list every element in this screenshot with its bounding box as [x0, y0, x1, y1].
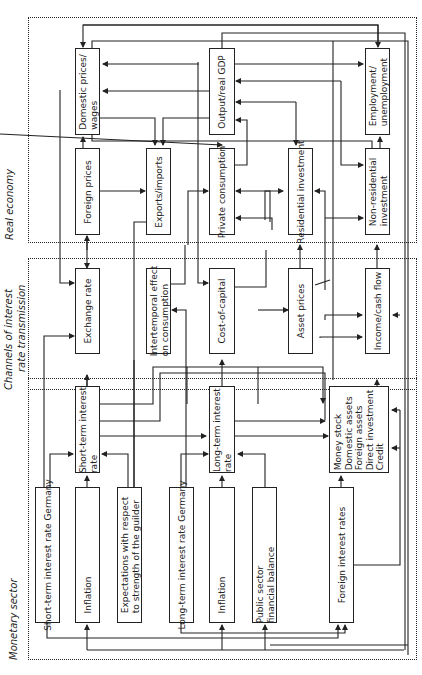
short-term-germany-label: Short-term interest rate Germany	[42, 479, 53, 631]
box-inflation-2: Inflation	[209, 487, 235, 623]
box-exports-imports: Exports/imports	[146, 148, 171, 235]
box-public-sector: Public sector financial balance	[252, 487, 277, 623]
box-long-term-germany: Long-term interest rate Germany	[169, 487, 194, 623]
foreign-rates-label: Foreign interest rates	[336, 507, 347, 604]
box-income-cash-flow: Income/cash flow	[365, 268, 390, 354]
box-employment: Employment/ unemployment	[365, 48, 390, 135]
box-inflation-1: Inflation	[75, 487, 100, 623]
box-residential-investment: Residential investment	[288, 148, 313, 235]
short-term-rate-label: Short-term interest rate	[77, 386, 98, 472]
foreign-prices-label: Foreign prices	[82, 160, 93, 223]
exports-imports-label: Exports/imports	[153, 156, 164, 228]
exchange-rate-label: Exchange rate	[82, 278, 93, 343]
money-stock-label: Money stock Domestic assets Foreign asse…	[333, 389, 386, 470]
box-long-term-rate: Long-term interest rate	[209, 386, 235, 473]
output-gdp-label: Output/real GDP	[217, 55, 228, 129]
box-output-gdp: Output/real GDP	[209, 48, 235, 135]
box-exchange-rate: Exchange rate	[75, 268, 100, 354]
box-non-residential-investment: Non-residential investment	[365, 148, 390, 235]
box-short-term-germany: Short-term interest rate Germany	[35, 487, 60, 623]
inflation-1-label: Inflation	[82, 577, 93, 614]
employment-label: Employment/ unemployment	[367, 57, 388, 125]
box-asset-prices: Asset prices	[288, 268, 313, 354]
domestic-prices-label: Domestic prices/ wages	[77, 54, 98, 129]
long-term-rate-label: Long-term interest rate	[212, 388, 233, 472]
box-foreign-rates: Foreign interest rates	[329, 487, 354, 623]
expectations-label: Expectations with respect to strength of…	[119, 497, 140, 613]
long-term-germany-label: Long-term interest rate Germany	[176, 480, 187, 629]
box-money-stock: Money stock Domestic assets Foreign asse…	[329, 386, 389, 473]
box-short-term-rate: Short-term interest rate	[75, 386, 100, 473]
box-intertemporal: Intertemporal effect on consumption	[146, 268, 171, 354]
income-cash-flow-label: Income/cash flow	[372, 272, 383, 350]
box-private-consumption: Private consumption	[209, 148, 235, 235]
box-foreign-prices: Foreign prices	[75, 148, 100, 235]
residential-investment-label: Residential investment	[295, 140, 306, 243]
inflation-2-label: Inflation	[217, 577, 228, 614]
private-consumption-label: Private consumption	[217, 145, 228, 238]
transmission-diagram: Real economy Channels of interest rate t…	[0, 0, 422, 675]
box-domestic-prices: Domestic prices/ wages	[75, 48, 100, 135]
public-sector-label: Public sector financial balance	[254, 547, 275, 623]
intertemporal-label: Intertemporal effect on consumption	[148, 266, 169, 357]
box-cost-of-capital: Cost-of-capital	[209, 268, 235, 354]
non-residential-investment-label: Non-residential investment	[367, 157, 388, 225]
box-expectations: Expectations with respect to strength of…	[117, 487, 142, 623]
asset-prices-label: Asset prices	[295, 284, 306, 339]
cost-of-capital-label: Cost-of-capital	[217, 278, 228, 343]
